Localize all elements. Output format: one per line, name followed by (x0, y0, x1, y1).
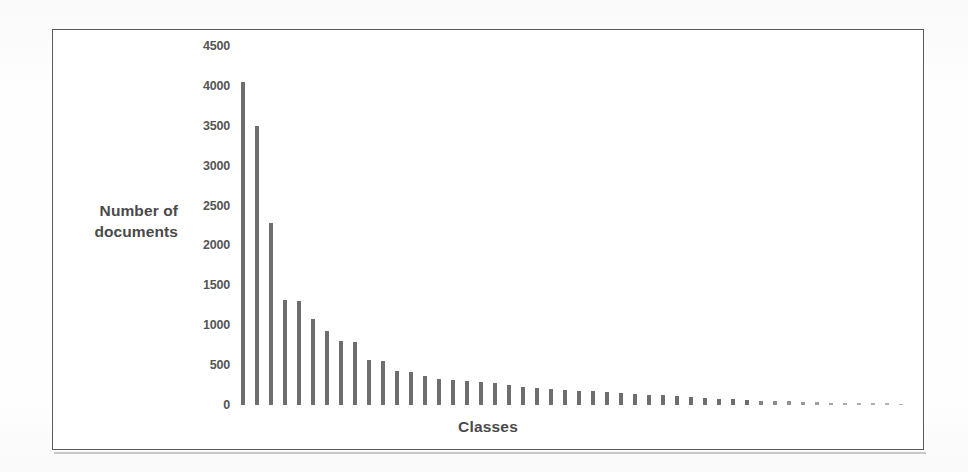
bar (269, 223, 273, 405)
y-axis-tick-labels: 450040003500300025002000150010005000 (178, 29, 230, 450)
y-axis-tick-4500: 4500 (178, 39, 230, 53)
bar (577, 391, 581, 405)
bar (535, 388, 539, 405)
bar (633, 394, 637, 405)
bar (661, 395, 665, 405)
y-axis-title-line-2: documents (62, 221, 178, 242)
bar (311, 319, 315, 405)
bar (297, 301, 301, 405)
y-axis-tick-0: 0 (178, 398, 230, 412)
bar (563, 390, 567, 405)
y-axis-title-line-1: Number of (62, 200, 178, 221)
y-axis-tick-3500: 3500 (178, 119, 230, 133)
x-axis-title: Classes (52, 418, 924, 436)
bar (647, 395, 651, 405)
bar (619, 393, 623, 405)
bar (521, 387, 525, 405)
bar (591, 391, 595, 405)
bars-layer (236, 46, 908, 405)
x-axis-baseline (236, 405, 896, 406)
bar (675, 396, 679, 405)
y-axis-tick-2000: 2000 (178, 238, 230, 252)
bar (283, 300, 287, 405)
bar (395, 371, 399, 405)
bar (451, 380, 455, 405)
bar (325, 331, 329, 405)
y-axis-tick-4000: 4000 (178, 79, 230, 93)
y-axis-tick-500: 500 (178, 358, 230, 372)
bar (241, 82, 245, 405)
bar (465, 381, 469, 405)
bar (493, 383, 497, 405)
y-axis-tick-1500: 1500 (178, 278, 230, 292)
y-axis-tick-2500: 2500 (178, 199, 230, 213)
bar (703, 398, 707, 405)
bar (339, 341, 343, 405)
bar (605, 392, 609, 405)
bar (437, 379, 441, 405)
y-axis-tick-3000: 3000 (178, 159, 230, 173)
bar (899, 404, 903, 405)
bar (423, 376, 427, 405)
bar (689, 397, 693, 405)
bar (255, 126, 259, 405)
bar (409, 372, 413, 405)
bar (549, 389, 553, 405)
bar (367, 360, 371, 405)
frame-shadow-line (54, 452, 926, 454)
y-axis-title: Number of documents (62, 200, 178, 242)
bar (479, 382, 483, 405)
bar (353, 342, 357, 405)
y-axis-tick-1000: 1000 (178, 318, 230, 332)
plot-area (236, 46, 908, 405)
bar (507, 385, 511, 405)
figure-root: Number of documents 45004000350030002500… (0, 0, 968, 472)
bar (381, 361, 385, 405)
